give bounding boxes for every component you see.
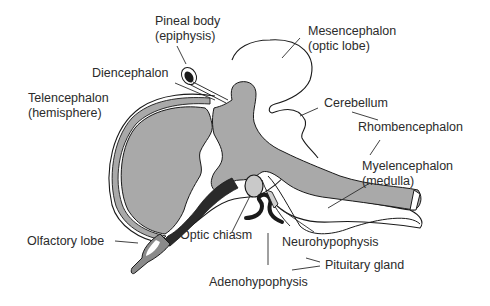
label-rhombencephalon: Rhombencephalon: [358, 120, 463, 134]
label-epiphysis: (epiphysis): [155, 29, 215, 43]
label-telencephalon: Telencephalon: [28, 91, 109, 105]
brain-diagram: Pineal body (epiphysis) Mesencephalon (o…: [0, 0, 490, 306]
label-hemisphere: (hemisphere): [28, 106, 102, 120]
label-optic-chiasm: Optic chiasm: [180, 228, 252, 242]
label-diencephalon: Diencephalon: [92, 66, 168, 80]
label-medulla: (medulla): [362, 174, 414, 188]
adenohypophysis-shape: [246, 195, 282, 222]
label-olfactory-lobe: Olfactory lobe: [27, 234, 104, 248]
label-optic-lobe: (optic lobe): [308, 39, 370, 53]
label-adenohypophysis: Adenohypophysis: [209, 275, 308, 289]
label-cerebellum: Cerebellum: [324, 96, 388, 110]
label-neurohypophysis: Neurohypophysis: [282, 235, 379, 249]
label-pituitary-gland: Pituitary gland: [325, 258, 404, 272]
brainstem-grey: [211, 82, 421, 210]
label-mesencephalon: Mesencephalon: [308, 24, 396, 38]
brain-illustration: [0, 0, 490, 306]
label-myelencephalon: Myelencephalon: [362, 159, 453, 173]
label-pineal-body: Pineal body: [155, 14, 220, 28]
